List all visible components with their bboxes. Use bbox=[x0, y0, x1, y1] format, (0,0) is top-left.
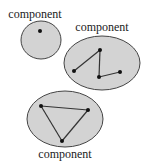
node bbox=[97, 75, 101, 79]
component-region bbox=[27, 91, 103, 147]
nodes bbox=[38, 29, 42, 33]
node bbox=[118, 70, 122, 74]
component-2: component bbox=[27, 91, 103, 161]
component-0: component bbox=[8, 7, 62, 59]
node bbox=[39, 104, 43, 108]
node bbox=[38, 29, 42, 33]
component-region bbox=[21, 21, 61, 59]
node bbox=[98, 48, 102, 52]
component-label: component bbox=[75, 20, 129, 34]
node bbox=[86, 108, 90, 112]
node bbox=[60, 139, 64, 143]
component-label: component bbox=[38, 147, 92, 161]
component-diagram: component component component bbox=[0, 0, 151, 165]
node bbox=[72, 69, 76, 73]
component-label: component bbox=[8, 7, 62, 21]
component-1: component bbox=[64, 20, 140, 90]
component-region bbox=[64, 36, 140, 90]
